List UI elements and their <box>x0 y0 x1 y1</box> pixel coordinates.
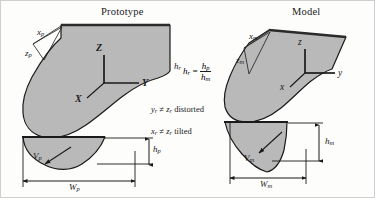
figure-container: Prototype Model xp zp Z Y X Vp hp Wp hr … <box>0 0 375 198</box>
model-volume-label: Vm <box>244 154 254 164</box>
model-y-axis-label: y <box>338 69 342 79</box>
model-xm-label: xm <box>249 32 258 42</box>
prototype-z-axis-label: Z <box>96 43 102 53</box>
height-ratio-marker: hr <box>174 62 181 72</box>
note-tilted: xr ≠ zr tilted <box>151 127 192 137</box>
prototype-zp-label: zp <box>25 49 32 59</box>
model-title: Model <box>292 7 320 18</box>
model-body-shape <box>224 30 346 122</box>
note-distorted: yr ≠ zr distorted <box>151 105 204 115</box>
ratio-equals: = <box>190 66 200 76</box>
prototype-x-axis-label: X <box>75 94 82 104</box>
model-shape-group <box>224 30 346 172</box>
prototype-height-label: hp <box>153 145 161 155</box>
model-zm-label: zm <box>236 56 244 66</box>
ratio-fraction: hphm <box>200 61 211 82</box>
prototype-y-axis-label: Y <box>142 78 148 88</box>
prototype-title: Prototype <box>101 7 144 18</box>
prototype-volume-label: Vp <box>33 152 42 162</box>
prototype-height-dimension <box>97 138 153 165</box>
model-lower-lobe <box>225 122 287 172</box>
model-height-label: hm <box>325 137 334 147</box>
model-x-axis-label: x <box>280 83 284 93</box>
model-width-label: Wm <box>260 180 272 190</box>
model-z-axis-label: z <box>298 38 302 48</box>
prototype-width-label: Wp <box>69 183 80 193</box>
diagram-svg <box>1 1 375 198</box>
prototype-xp-label: xp <box>37 28 44 38</box>
height-ratio-equation: hr=hphm <box>183 61 211 82</box>
ratio-lhs: hr <box>183 66 190 76</box>
